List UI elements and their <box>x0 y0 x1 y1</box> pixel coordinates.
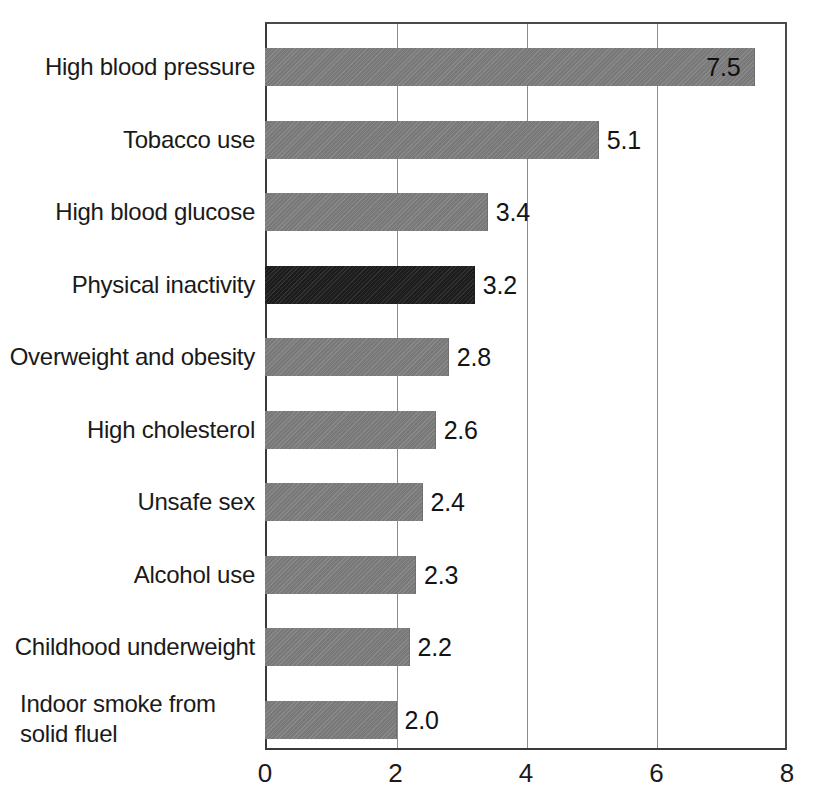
category-label: High blood pressure <box>0 52 255 82</box>
bar-value-label: 3.2 <box>474 266 517 304</box>
x-tick-label: 0 <box>258 756 272 790</box>
bar-row: 3.4 <box>265 193 787 231</box>
horizontal-bar-chart: High blood pressureTobacco useHigh blood… <box>0 0 822 802</box>
bar <box>265 701 397 739</box>
bar-row: 2.6 <box>265 411 787 449</box>
category-axis-labels: High blood pressureTobacco useHigh blood… <box>0 22 255 750</box>
bar-row: 3.2 <box>265 266 787 304</box>
bar <box>265 411 436 449</box>
category-label: Overweight and obesity <box>0 342 255 372</box>
bar <box>265 121 599 159</box>
bar-value-label: 3.4 <box>487 193 530 231</box>
bar <box>265 556 416 594</box>
category-label: Unsafe sex <box>0 487 255 517</box>
bar-value-label: 5.1 <box>598 121 641 159</box>
x-tick-label: 6 <box>649 756 663 790</box>
bar-row: 5.1 <box>265 121 787 159</box>
category-label: Childhood underweight <box>0 632 255 662</box>
bar-row: 2.0 <box>265 701 787 739</box>
bar-value-label: 2.4 <box>422 483 465 521</box>
x-tick-label: 4 <box>519 756 533 790</box>
bar-row: 2.2 <box>265 628 787 666</box>
category-label: High cholesterol <box>0 415 255 445</box>
bar-value-label: 2.2 <box>409 628 452 666</box>
x-tick-label: 2 <box>388 756 402 790</box>
bar-row: 2.4 <box>265 483 787 521</box>
bar-row: 2.3 <box>265 556 787 594</box>
bar-row: 7.5 <box>265 48 787 86</box>
bar <box>265 193 488 231</box>
bar-value-label: 2.8 <box>448 338 491 376</box>
bar-row: 2.8 <box>265 338 787 376</box>
x-tick-label: 8 <box>780 756 794 790</box>
bar <box>265 483 423 521</box>
category-label: High blood glucose <box>0 197 255 227</box>
bar <box>265 266 475 304</box>
bar-value-label: 2.6 <box>435 411 478 449</box>
category-label: Indoor smoke from solid fluel <box>20 689 260 749</box>
bar-value-label: 2.0 <box>396 701 439 739</box>
bar <box>265 628 410 666</box>
bar-value-label: 7.5 <box>265 48 740 86</box>
category-label: Tobacco use <box>0 125 255 155</box>
bar-value-label: 2.3 <box>415 556 458 594</box>
category-label: Alcohol use <box>0 560 255 590</box>
bars-layer: 7.55.13.43.22.82.62.42.32.22.0 <box>265 22 787 750</box>
bar <box>265 338 449 376</box>
category-label: Physical inactivity <box>0 270 255 300</box>
x-axis-ticks: 02468 <box>0 756 822 800</box>
